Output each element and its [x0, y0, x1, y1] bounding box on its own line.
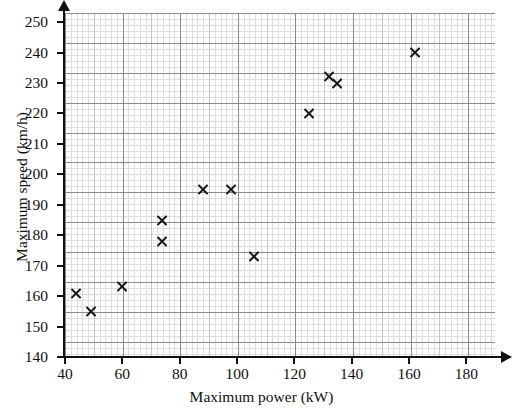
x-axis-tick — [465, 356, 467, 364]
x-axis-tick-label: 120 — [271, 366, 317, 382]
y-axis-tick — [57, 82, 65, 84]
y-axis-tick — [57, 234, 65, 236]
data-point — [70, 287, 83, 300]
scatter-chart: 140150160170180190200210220230240250 406… — [0, 0, 523, 412]
x-axis-tick — [293, 356, 295, 364]
y-axis-tick — [57, 326, 65, 328]
y-axis-tick — [57, 265, 65, 267]
x-axis-arrow-icon — [501, 351, 512, 363]
y-axis-tick-label: 140 — [8, 349, 48, 365]
x-axis-tick-label: 100 — [214, 366, 260, 382]
x-axis-tick — [236, 356, 238, 364]
x-axis-tick-label: 140 — [329, 366, 375, 382]
x-axis-tick-label: 60 — [99, 366, 145, 382]
data-point — [248, 250, 261, 263]
data-point — [408, 46, 421, 59]
x-axis-tick — [64, 356, 66, 364]
y-axis-tick — [57, 112, 65, 114]
x-axis-title: Maximum power (kW) — [0, 388, 523, 406]
y-axis-line — [63, 8, 65, 358]
data-point — [196, 183, 209, 196]
y-axis-tick — [57, 173, 65, 175]
y-axis-tick — [57, 295, 65, 297]
data-point — [116, 280, 129, 293]
y-axis-tick-label: 150 — [8, 319, 48, 335]
y-axis-tick-label: 240 — [8, 45, 48, 61]
x-axis-tick-label: 160 — [386, 366, 432, 382]
y-axis-tick — [57, 52, 65, 54]
y-axis-tick-label: 250 — [8, 14, 48, 30]
data-point — [84, 305, 97, 318]
gridlines-major — [65, 13, 495, 357]
x-axis-tick — [408, 356, 410, 364]
x-axis-tick — [351, 356, 353, 364]
data-markers-layer — [65, 13, 495, 357]
y-axis-tick-label: 160 — [8, 288, 48, 304]
y-axis-arrow-icon — [58, 0, 70, 11]
y-axis-tick — [57, 204, 65, 206]
x-axis-tick-label: 180 — [443, 366, 489, 382]
y-axis-tick — [57, 143, 65, 145]
data-point — [156, 235, 169, 248]
x-axis-tick-label: 80 — [157, 366, 203, 382]
gridlines-minor — [65, 13, 495, 357]
gridlines-medium — [65, 13, 495, 357]
x-axis-tick — [179, 356, 181, 364]
x-axis-line — [63, 356, 503, 358]
data-point — [331, 77, 344, 90]
x-axis-tick-label: 40 — [42, 366, 88, 382]
data-point — [322, 70, 335, 83]
data-point — [302, 107, 315, 120]
plot-area — [65, 13, 495, 357]
x-axis-tick — [121, 356, 123, 364]
data-point — [225, 183, 238, 196]
data-point — [156, 214, 169, 227]
y-axis-title: Maximum speed (km/h) — [13, 87, 31, 287]
y-axis-tick — [57, 21, 65, 23]
